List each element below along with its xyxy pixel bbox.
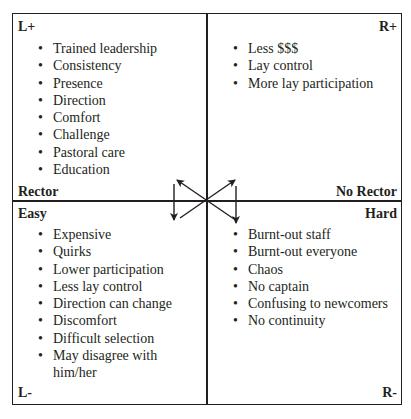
arrows-cluster-icon xyxy=(0,0,411,419)
arrow-up-right-icon xyxy=(180,180,235,218)
